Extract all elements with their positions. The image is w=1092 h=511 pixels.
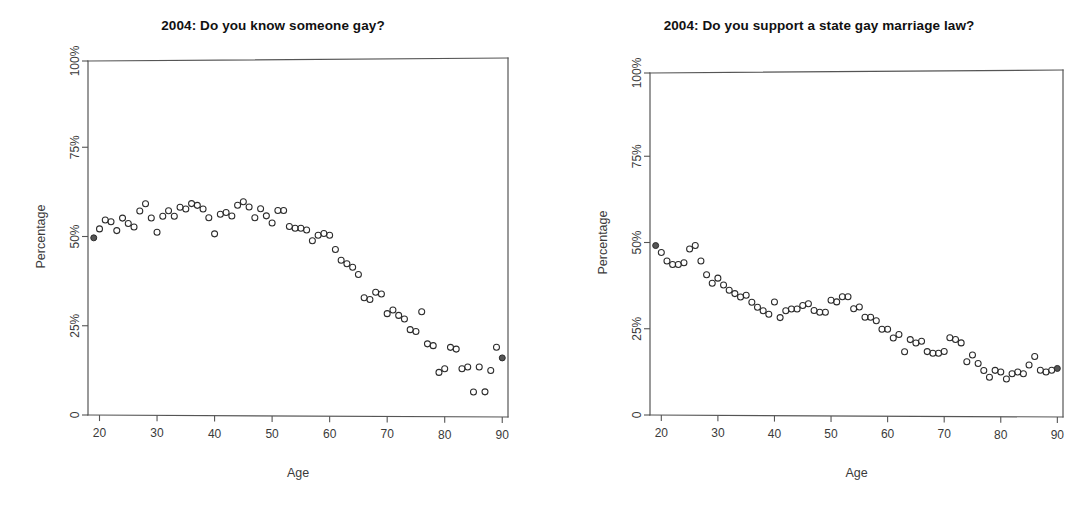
data-point [941,349,947,355]
data-point [896,331,902,337]
data-point [953,336,959,342]
data-point [726,287,732,293]
x-tick-label: 80 [994,428,1008,442]
x-tick-label: 30 [711,426,725,440]
data-point [783,308,789,314]
plot-frame-top [650,70,1063,73]
y-tick-label: 25% [630,316,644,340]
data-point [670,261,676,267]
data-point [436,369,442,375]
x-tick-label: 90 [1051,428,1065,442]
data-point [675,261,681,267]
data-point [235,202,241,208]
data-point [856,304,862,310]
data-point [338,257,344,263]
data-point [470,389,476,395]
data-point [321,231,327,237]
x-tick-label: 30 [150,426,164,440]
data-point [766,311,772,317]
data-point [794,306,800,312]
data-point [1003,376,1009,382]
data-point [998,369,1004,375]
data-point [958,340,964,346]
data-point [811,308,817,314]
data-point [986,374,992,380]
data-point [1009,371,1015,377]
x-tick-label: 60 [881,427,895,441]
y-tick-label: 75% [68,135,82,159]
data-point [453,346,459,352]
data-point [424,341,430,347]
data-point [715,275,721,281]
data-point [1026,362,1032,368]
y-tick-label: 25% [68,313,82,337]
data-point-group [91,199,506,395]
data-point [488,367,494,373]
data-point [499,355,505,361]
data-point [760,308,766,314]
x-tick-label: 50 [824,427,838,441]
data-point [721,282,727,288]
data-point [108,219,114,225]
data-point [851,306,857,312]
y-axis-title: Percentage [34,204,48,268]
x-tick-label: 60 [323,427,337,441]
data-point [687,246,693,252]
data-point [1032,353,1038,359]
data-point [97,226,103,232]
figure-container: 2004: Do you know someone gay? 203040506… [0,0,1092,511]
scatter-plot-left: 2030405060708090025%50%75%100%AgePercent… [0,0,546,511]
data-point [212,231,218,237]
data-point [373,289,379,295]
data-point [907,337,913,343]
data-point [879,326,885,332]
data-point [902,349,908,355]
data-point [275,207,281,213]
x-tick-label: 90 [496,428,510,442]
x-tick-label: 70 [938,427,952,441]
data-point [355,271,361,277]
data-point [743,292,749,298]
data-point [1020,371,1026,377]
data-point [194,202,200,208]
data-point [862,314,868,320]
data-point [148,215,154,221]
data-point [160,213,166,219]
data-point [102,217,108,223]
data-point [430,343,436,349]
data-point-group [653,242,1061,382]
x-tick-label: 20 [93,426,107,440]
data-point [361,295,367,301]
data-point [930,350,936,356]
data-point [890,335,896,341]
data-point [183,206,189,212]
data-point [1049,367,1055,373]
data-point [143,201,149,207]
data-point [822,309,828,315]
data-point [828,297,834,303]
chart-panel-right: 2004: Do you support a state gay marriag… [546,0,1092,511]
x-axis-title: Age [287,466,309,480]
x-tick-label: 50 [265,427,279,441]
data-point [754,304,760,310]
data-point [873,318,879,324]
data-point [947,335,953,341]
data-point [482,389,488,395]
data-point [125,220,131,226]
data-point [681,260,687,266]
data-point [114,228,120,234]
data-point [936,350,942,356]
data-point [246,204,252,210]
data-point [975,361,981,367]
data-point [292,225,298,231]
data-point [258,206,264,212]
plot-frame-top [88,58,508,61]
data-point [704,272,710,278]
data-point [229,213,235,219]
data-point [1043,369,1049,375]
data-point [1037,367,1043,373]
data-point [378,291,384,297]
data-point [154,229,160,235]
data-point [964,359,970,365]
data-point [493,344,499,350]
